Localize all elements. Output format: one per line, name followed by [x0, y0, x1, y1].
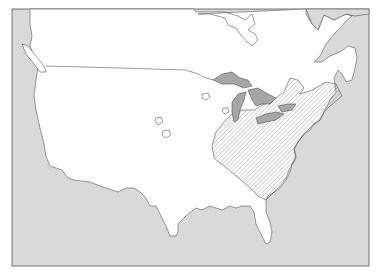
range-map: [0, 0, 378, 274]
map-svg: [0, 0, 378, 274]
